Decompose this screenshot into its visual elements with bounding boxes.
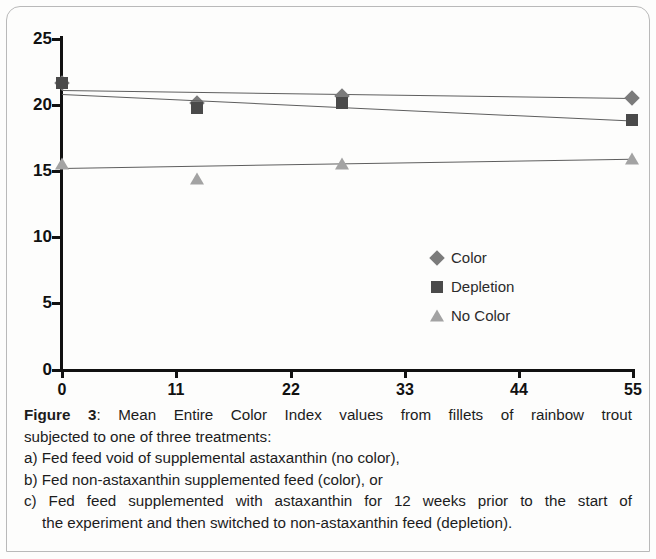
data-point-depletion — [191, 102, 203, 114]
caption-text-1: Mean Entire Color Index values from fill… — [118, 406, 632, 423]
trendline-depletion — [62, 94, 632, 122]
caption-line-2: subjected to one of three treatments: — [24, 426, 632, 448]
caption-line-4: b) Fed non-astaxanthin supplemented feed… — [24, 469, 632, 491]
figure-chart: 0 5 10 15 20 25 0 11 22 33 44 55 — [0, 0, 656, 400]
x-axis-label-22: 22 — [271, 381, 311, 399]
data-point-no-color — [190, 172, 204, 184]
y-tick-5 — [52, 302, 61, 305]
legend-item-no-color: No Color — [430, 301, 580, 330]
caption-line-6: the experiment and then switched to non-… — [24, 512, 632, 534]
caption-line-5: c) Fed feed supplemented with astaxanthi… — [24, 490, 632, 512]
y-axis-label-0: 0 — [8, 360, 52, 380]
x-axis-label-55: 55 — [613, 381, 653, 399]
y-axis-label-20: 20 — [8, 95, 52, 115]
y-axis-label-10: 10 — [8, 227, 52, 247]
data-point-depletion — [56, 77, 68, 89]
trendline-no-color — [62, 159, 632, 169]
y-tick-0 — [52, 369, 61, 372]
legend-label-no-color: No Color — [451, 307, 510, 324]
legend-item-color: Color — [430, 243, 580, 272]
legend-label-color: Color — [451, 249, 487, 266]
x-tick-22 — [290, 369, 293, 378]
chart-legend: Color Depletion No Color — [430, 243, 580, 330]
data-point-color — [54, 75, 70, 91]
x-tick-11 — [175, 369, 178, 378]
x-axis-label-11: 11 — [156, 381, 196, 399]
y-axis-label-15: 15 — [8, 161, 52, 181]
scanned-page: 0 5 10 15 20 25 0 11 22 33 44 55 Color — [0, 0, 656, 559]
triangle-marker-icon — [430, 309, 444, 323]
data-point-color — [189, 95, 205, 111]
legend-item-depletion: Depletion — [430, 272, 580, 301]
figure-label-separator: : — [96, 406, 100, 423]
square-marker-icon — [430, 280, 444, 294]
x-axis-label-33: 33 — [385, 381, 425, 399]
y-tick-10 — [52, 236, 61, 239]
y-axis-label-25: 25 — [8, 29, 52, 49]
data-point-color — [334, 89, 350, 105]
figure-caption: Figure 3: Mean Entire Color Index values… — [24, 404, 632, 533]
diamond-marker-icon — [430, 251, 444, 265]
x-tick-33 — [404, 369, 407, 378]
x-axis-label-44: 44 — [499, 381, 539, 399]
legend-label-depletion: Depletion — [451, 278, 514, 295]
x-tick-0 — [61, 369, 64, 378]
x-axis-label-0: 0 — [42, 381, 82, 399]
figure-number: Figure 3 — [24, 406, 96, 423]
y-tick-15 — [52, 170, 61, 173]
y-tick-25 — [52, 38, 61, 41]
x-tick-44 — [518, 369, 521, 378]
y-tick-20 — [52, 104, 61, 107]
x-tick-55 — [632, 369, 635, 378]
y-axis-label-5: 5 — [8, 293, 52, 313]
caption-line-1: Figure 3: Mean Entire Color Index values… — [24, 404, 632, 426]
caption-line-3: a) Fed feed void of supplemental astaxan… — [24, 447, 632, 469]
